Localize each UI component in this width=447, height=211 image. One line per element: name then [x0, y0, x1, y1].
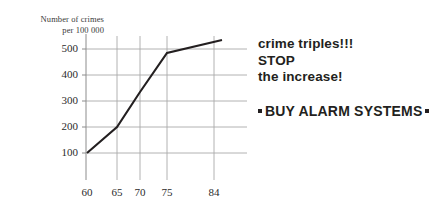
y-axis-ticks [82, 49, 86, 153]
slogan-line-2: STOP [258, 53, 446, 70]
x-tick-label-75: 75 [154, 186, 180, 198]
vertical-gridlines [117, 36, 214, 180]
slogan-line-3: the increase! [258, 69, 446, 86]
y-tick-label-400: 400 [48, 68, 78, 80]
x-tick-label-70: 70 [127, 186, 153, 198]
x-tick-label-60: 60 [74, 186, 100, 198]
y-tick-label-200: 200 [48, 120, 78, 132]
slogan-block: crime triples!!! STOP the increase! BUY … [258, 36, 446, 119]
slogan-line-1: crime triples!!! [258, 36, 446, 53]
y-tick-label-500: 500 [48, 42, 78, 54]
y-tick-label-100: 100 [48, 146, 78, 158]
crime-rate-chart: Number of crimes per 100 000 500 400 300… [0, 0, 260, 211]
y-tick-label-300: 300 [48, 94, 78, 106]
horizontal-gridlines [86, 49, 247, 153]
bullet-square-left-icon [258, 109, 262, 113]
callout-text: BUY ALARM SYSTEMS [265, 103, 422, 119]
crime-rate-line [87, 40, 222, 153]
y-axis-label-line-1: Number of crimes [18, 14, 104, 25]
x-tick-label-84: 84 [201, 186, 227, 198]
bullet-square-right-icon [425, 109, 429, 113]
buy-alarm-systems-callout: BUY ALARM SYSTEMS [258, 103, 446, 119]
y-axis-label-line-2: per 100 000 [18, 25, 104, 36]
